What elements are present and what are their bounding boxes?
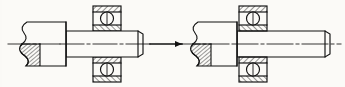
section-hatch-right xyxy=(191,44,211,66)
bearing-outer-race-lower xyxy=(93,76,121,82)
left-assembly-group xyxy=(8,6,152,82)
bearing-outer-race-upper xyxy=(93,6,121,12)
bearing-inner-race-lower xyxy=(239,57,267,63)
section-hatch-left xyxy=(20,44,40,66)
bearing-inner-race-lower xyxy=(93,57,121,63)
right-assembly-group xyxy=(180,6,341,82)
bearing-outer-race-lower xyxy=(239,76,267,82)
bearing-outer-race-upper xyxy=(239,6,267,12)
bearing-inner-race-upper xyxy=(239,25,267,31)
assembly-drawing-svg xyxy=(0,0,345,87)
drawing-canvas xyxy=(0,0,345,87)
bearing-inner-race-upper xyxy=(93,25,121,31)
